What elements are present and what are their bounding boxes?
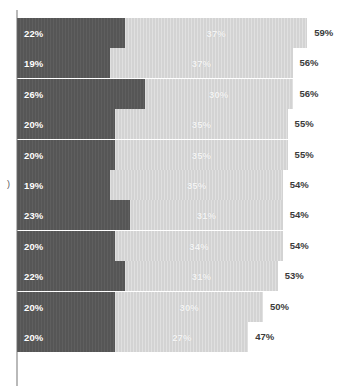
bar-segment-primary-label: 20% xyxy=(17,302,43,313)
bar-segment-primary-label: 20% xyxy=(17,119,43,130)
bar-segment-primary-label: 19% xyxy=(17,58,43,69)
bar-segment-secondary: 35% xyxy=(115,140,287,170)
bar-row: 19%37% xyxy=(17,48,293,78)
bar-segment-primary: 22% xyxy=(17,261,125,291)
bar-row: 23%31% xyxy=(17,200,283,230)
bar-row: 20%35% xyxy=(17,109,288,139)
bar-segment-secondary: 31% xyxy=(130,200,283,230)
bar-row: 20%30% xyxy=(17,292,263,322)
bar-row: 20%34% xyxy=(17,231,283,261)
bar-segment-primary: 23% xyxy=(17,200,130,230)
bar-row: 19%35% xyxy=(17,170,283,200)
bar-segment-primary: 20% xyxy=(17,109,115,139)
bar-segment-secondary: 31% xyxy=(125,261,278,291)
stacked-bar-chart: ) 22%37%59%19%37%56%26%30%56%20%35%55%20… xyxy=(0,0,337,392)
bar-row: 26%30% xyxy=(17,79,293,109)
bar-segment-primary-label: 19% xyxy=(17,180,43,191)
bar-segment-primary: 22% xyxy=(17,18,125,48)
bar-segment-primary: 20% xyxy=(17,231,115,261)
bar-total-label: 56% xyxy=(300,48,319,78)
bar-total-label: 56% xyxy=(300,79,319,109)
bar-total-label: 54% xyxy=(290,231,309,261)
clipped-category-label: ) xyxy=(0,180,10,189)
bar-segment-primary-label: 20% xyxy=(17,150,43,161)
bar-segment-secondary: 37% xyxy=(110,48,292,78)
bar-row: 22%31% xyxy=(17,261,278,291)
bar-segment-secondary: 34% xyxy=(115,231,282,261)
bar-total-label: 53% xyxy=(285,261,304,291)
bar-total-label: 47% xyxy=(255,322,274,352)
bar-total-label: 54% xyxy=(290,200,309,230)
bar-segment-secondary-label: 35% xyxy=(115,150,287,161)
bar-segment-secondary-label: 35% xyxy=(110,180,282,191)
bar-segment-secondary-label: 35% xyxy=(115,119,287,130)
bar-segment-secondary-label: 30% xyxy=(145,89,293,100)
bar-segment-primary: 20% xyxy=(17,322,115,352)
bar-total-label: 54% xyxy=(290,170,309,200)
bar-segment-secondary: 30% xyxy=(145,79,293,109)
bar-total-label: 59% xyxy=(314,18,333,48)
bar-segment-secondary: 30% xyxy=(115,292,263,322)
bar-segment-primary-label: 22% xyxy=(17,28,43,39)
bar-segment-secondary-label: 37% xyxy=(125,28,307,39)
bar-segment-primary: 20% xyxy=(17,292,115,322)
bar-segment-secondary-label: 30% xyxy=(115,302,263,313)
bar-row: 22%37% xyxy=(17,18,307,48)
bar-segment-primary: 19% xyxy=(17,170,110,200)
bar-row: 20%35% xyxy=(17,140,288,170)
bar-total-label: 55% xyxy=(295,109,314,139)
bar-segment-secondary-label: 31% xyxy=(130,210,283,221)
bar-segment-primary: 19% xyxy=(17,48,110,78)
bar-segment-primary-label: 26% xyxy=(17,89,43,100)
bar-segment-primary-label: 20% xyxy=(17,241,43,252)
bar-segment-primary: 20% xyxy=(17,140,115,170)
bar-segment-secondary: 37% xyxy=(125,18,307,48)
bar-segment-secondary: 35% xyxy=(110,170,282,200)
bar-segment-primary-label: 20% xyxy=(17,332,43,343)
bar-segment-secondary-label: 31% xyxy=(125,271,278,282)
bar-segment-primary: 26% xyxy=(17,79,145,109)
bar-segment-secondary-label: 34% xyxy=(115,241,282,252)
bar-row: 20%27% xyxy=(17,322,248,352)
bar-total-label: 50% xyxy=(270,292,289,322)
bar-segment-secondary: 35% xyxy=(115,109,287,139)
bar-total-label: 55% xyxy=(295,140,314,170)
bar-segment-secondary: 27% xyxy=(115,322,248,352)
bar-segment-primary-label: 22% xyxy=(17,271,43,282)
bar-segment-secondary-label: 37% xyxy=(110,58,292,69)
bar-segment-secondary-label: 27% xyxy=(115,332,248,343)
bar-segment-primary-label: 23% xyxy=(17,210,43,221)
